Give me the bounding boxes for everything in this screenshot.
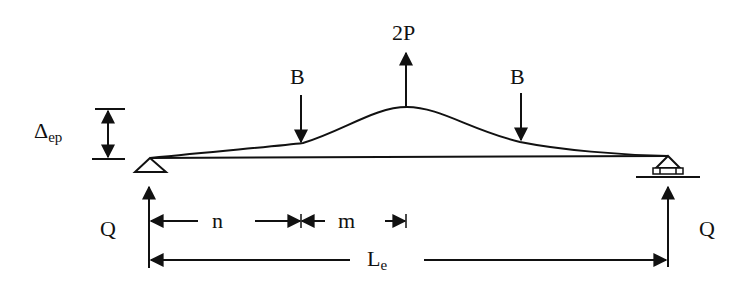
center-load-label: 2P — [392, 20, 415, 45]
dimension-m-label: m — [338, 208, 355, 233]
span-label: Le — [367, 246, 387, 273]
right-load-label: B — [510, 64, 525, 89]
dimension-n-label: n — [212, 208, 223, 233]
left-load-label: B — [290, 64, 305, 89]
left-reaction-label: Q — [100, 216, 116, 241]
left-pin-support — [135, 158, 166, 172]
right-reaction-label: Q — [699, 216, 715, 241]
deflection-label: Δep — [34, 118, 62, 145]
deflected-curve — [150, 107, 668, 158]
right-roller-support — [636, 156, 700, 177]
beam-diagram: Δep B B 2P Q Q n m Le — [0, 0, 751, 290]
dimension-n — [151, 214, 301, 228]
deflection-dimension — [92, 109, 125, 159]
beam-line — [150, 156, 668, 158]
